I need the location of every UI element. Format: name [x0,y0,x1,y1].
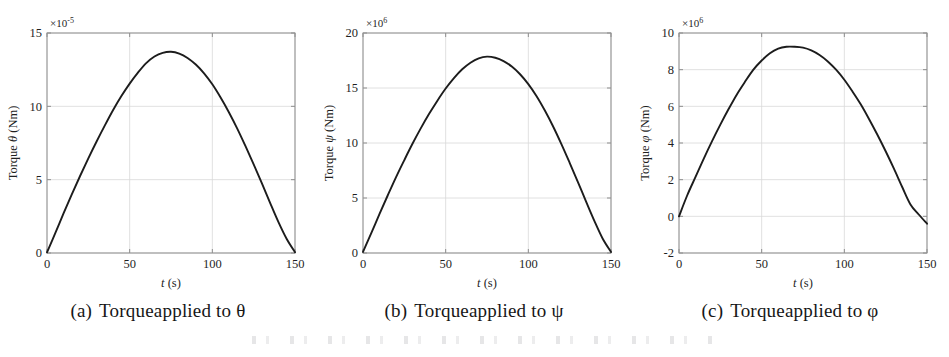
y-tick-label: 4 [668,136,675,150]
x-axis-title: t (s) [793,276,813,290]
plot-area-a: 050100150051015×10-5Torque θ (Nm)t (s) [0,0,316,300]
caption-text: Torqueapplied to φ [730,300,878,322]
caption-tag: (b) [384,300,407,322]
y-tick-label: 10 [346,136,359,150]
x-tick-label: 50 [755,257,768,271]
y-axis-exponent: ×106 [366,16,387,29]
y-tick-label: 0 [36,246,42,260]
plot-svg-a: 050100150051015×10-5Torque θ (Nm)t (s) [0,0,316,300]
x-tick-label: 150 [918,257,937,271]
panel-caption-b: (b)Torqueapplied to ψ [316,300,632,322]
caption-tag: (a) [70,300,92,322]
x-tick-label: 0 [360,257,366,271]
y-tick-label: -2 [664,246,674,260]
x-tick-label: 0 [676,257,682,271]
y-tick-label: 15 [346,81,359,95]
y-tick-label: 8 [668,63,674,77]
panel-caption-c: (c)Torqueapplied to φ [632,300,948,322]
caption-text: Torqueapplied to ψ [414,300,563,322]
x-tick-label: 50 [123,257,136,271]
caption-text: Torqueapplied to θ [99,300,245,322]
x-tick-label: 100 [835,257,854,271]
y-axis-title: Torque ψ (Nm) [322,105,336,181]
x-tick-label: 100 [519,257,538,271]
torque-curve [363,57,611,252]
chart-panel-a: 050100150051015×10-5Torque θ (Nm)t (s) (… [0,0,316,357]
torque-curve [679,47,927,224]
plot-svg-b: 05010015005101520×106Torque ψ (Nm)t (s) [316,0,632,300]
chart-panel-b: 05010015005101520×106Torque ψ (Nm)t (s) … [316,0,632,357]
y-tick-label: 20 [346,26,359,40]
figure-panel-row: 050100150051015×10-5Torque θ (Nm)t (s) (… [0,0,949,357]
plot-area-b: 05010015005101520×106Torque ψ (Nm)t (s) [316,0,632,300]
y-axis-title: Torque φ (Nm) [638,105,652,180]
chart-panel-c: 050100150-20246810×106Torque φ (Nm)t (s)… [632,0,948,357]
y-axis-exponent: ×10-5 [50,16,74,29]
y-axis-title: Torque θ (Nm) [6,106,20,181]
y-tick-label: 10 [662,26,675,40]
x-tick-label: 0 [44,257,50,271]
caption-tag: (c) [702,300,724,322]
x-tick-label: 100 [203,257,222,271]
plot-frame [47,33,295,253]
plot-svg-c: 050100150-20246810×106Torque φ (Nm)t (s) [632,0,948,300]
x-tick-label: 150 [286,257,305,271]
y-tick-label: 5 [352,191,358,205]
y-tick-label: 15 [30,26,43,40]
x-axis-title: t (s) [161,276,181,290]
plot-area-c: 050100150-20246810×106Torque φ (Nm)t (s) [632,0,948,300]
y-tick-label: 5 [36,173,42,187]
y-tick-label: 6 [668,100,674,114]
x-tick-label: 50 [439,257,452,271]
y-tick-label: 0 [352,246,358,260]
y-tick-label: 2 [668,173,674,187]
x-axis-title: t (s) [477,276,497,290]
x-tick-label: 150 [602,257,621,271]
panel-caption-a: (a)Torqueapplied to θ [0,300,316,322]
y-axis-exponent: ×106 [682,16,703,29]
y-tick-label: 10 [30,100,43,114]
torque-curve [47,52,295,253]
y-tick-label: 0 [668,210,674,224]
